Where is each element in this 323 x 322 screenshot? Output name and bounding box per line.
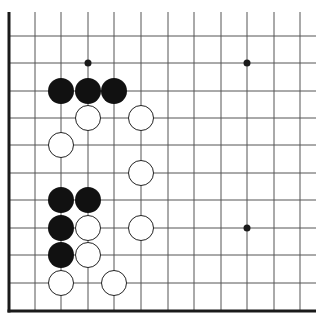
white-stone[interactable]	[102, 271, 127, 296]
white-stone[interactable]	[76, 243, 101, 268]
white-stone[interactable]	[129, 216, 154, 241]
black-stone[interactable]	[48, 242, 74, 268]
star-point-icon	[244, 225, 251, 232]
white-stone[interactable]	[49, 133, 74, 158]
star-point-icon	[244, 60, 251, 67]
white-stone[interactable]	[76, 216, 101, 241]
stones	[48, 78, 154, 296]
black-stone[interactable]	[48, 215, 74, 241]
white-stone[interactable]	[129, 161, 154, 186]
go-board[interactable]	[0, 0, 323, 322]
white-stone[interactable]	[76, 106, 101, 131]
black-stone[interactable]	[101, 78, 127, 104]
star-point-icon	[85, 60, 92, 67]
white-stone[interactable]	[49, 271, 74, 296]
black-stone[interactable]	[48, 78, 74, 104]
white-stone[interactable]	[129, 106, 154, 131]
black-stone[interactable]	[75, 78, 101, 104]
black-stone[interactable]	[75, 187, 101, 213]
black-stone[interactable]	[48, 187, 74, 213]
board-edges	[8, 12, 317, 313]
